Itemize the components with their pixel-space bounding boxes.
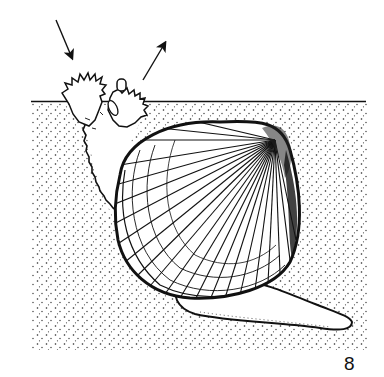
inhalant-current-arrow <box>56 20 72 58</box>
figure-number: 8 <box>344 354 355 373</box>
siphon-tip <box>117 79 126 91</box>
bivalve-illustration <box>0 0 384 377</box>
exhalant-current-arrow <box>143 43 165 80</box>
arrows <box>56 20 165 80</box>
shell <box>112 120 299 300</box>
